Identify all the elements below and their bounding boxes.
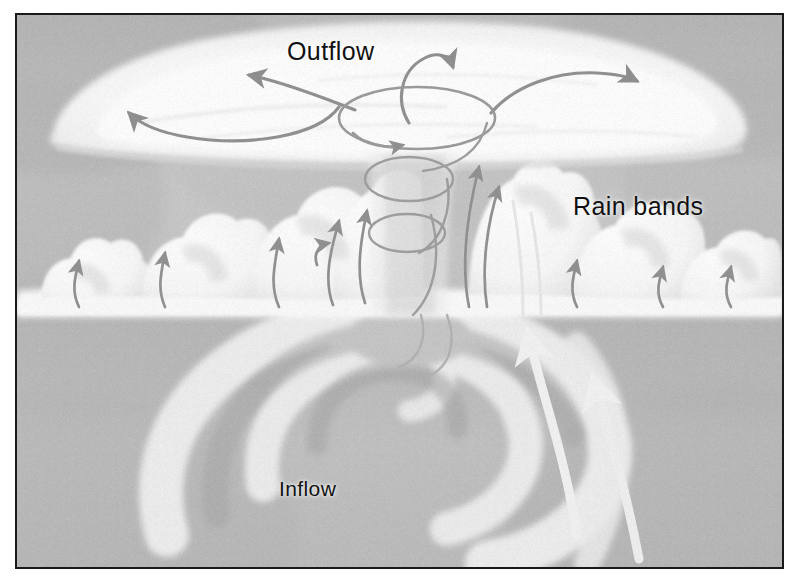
screenshot-root: Outflow Rain bands Inflow (0, 0, 797, 582)
diagram-artwork (17, 15, 782, 567)
hurricane-diagram-figure: Outflow Rain bands Inflow (15, 13, 784, 569)
